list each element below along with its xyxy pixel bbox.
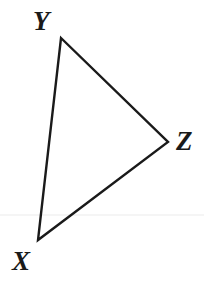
vertex-label-z: Z — [176, 128, 193, 155]
triangle-figure: Y Z X — [0, 0, 204, 293]
vertex-label-y: Y — [33, 8, 50, 35]
triangle-drawing — [0, 0, 204, 293]
figure-background — [0, 0, 204, 293]
vertex-label-x: X — [12, 248, 30, 275]
